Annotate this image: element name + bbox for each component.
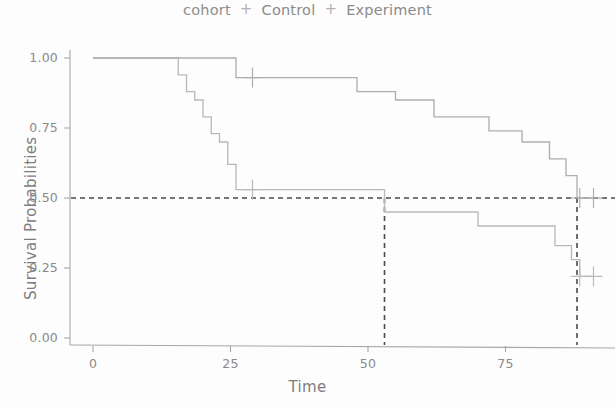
censor-mark-icon	[244, 68, 262, 88]
axis-layer	[64, 50, 615, 352]
survival-plot-figure: cohort + Control + Experiment Survival P…	[0, 0, 615, 408]
y-tick-label: 0.00	[18, 330, 58, 345]
y-tick-label: 0.25	[18, 260, 58, 275]
y-axis-title: Survival Probabilities	[22, 137, 40, 300]
y-tick-label: 1.00	[18, 50, 58, 65]
x-axis-title: Time	[0, 378, 615, 396]
x-tick-label: 75	[486, 356, 526, 371]
y-tick-label: 0.75	[18, 120, 58, 135]
series-layer	[93, 58, 603, 286]
plot-canvas	[0, 0, 615, 408]
censor-mark-icon	[585, 188, 603, 208]
reference-line-layer	[71, 198, 615, 345]
x-tick-label: 50	[348, 356, 388, 371]
y-tick-label: 0.50	[18, 190, 58, 205]
censor-mark-icon	[585, 266, 603, 286]
x-tick-label: 0	[73, 356, 113, 371]
x-axis-line	[70, 345, 615, 348]
series-line-experiment	[93, 58, 594, 198]
censor-mark-icon	[244, 180, 262, 200]
x-tick-label: 25	[211, 356, 251, 371]
series-line-control	[93, 58, 594, 276]
